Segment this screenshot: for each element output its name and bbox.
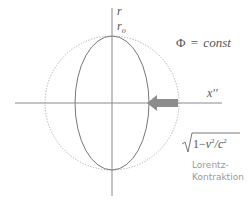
radius-label: ro [117, 19, 126, 35]
r-axis-label: r [117, 4, 122, 18]
x-axis-label: x'' [206, 86, 218, 100]
lorentz-factor-formula: 1−v2/c2 [182, 133, 240, 152]
svg-text:1−v2/c2: 1−v2/c2 [193, 137, 227, 151]
phase-const-label: Φ = const [176, 35, 231, 50]
motion-arrow-icon [147, 95, 178, 111]
caption-line-1: Lorentz- [192, 159, 252, 171]
lorentz-caption: Lorentz- Kontraktion [192, 159, 252, 183]
caption-line-2: Kontraktion [192, 171, 252, 183]
